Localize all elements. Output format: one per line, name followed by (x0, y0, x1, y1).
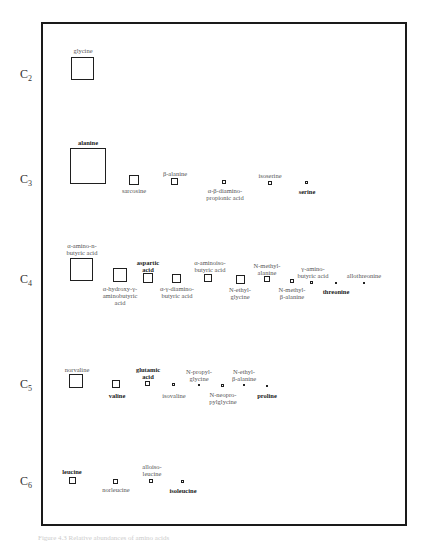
label-line: leucine (142, 470, 162, 477)
abundance-box-n-methylalanine (264, 276, 270, 282)
abundance-box-sarcosine (129, 175, 139, 185)
label-line: valine (109, 392, 126, 399)
label-alloisoleucine: alloiso-leucine (142, 463, 162, 477)
abundance-box-isoleucine (181, 480, 184, 483)
abundance-box-valine (112, 380, 120, 388)
label-line: isoleucine (169, 487, 196, 494)
label-line: α-hydroxy-γ- (103, 285, 138, 292)
label-line: glycine (229, 293, 251, 300)
label-line: α-β-diamino- (206, 187, 243, 194)
abundance-box-isoserine (268, 181, 272, 185)
abundance-box-n-neopropylglycine (221, 384, 224, 387)
row-label-c2: C2 (20, 67, 32, 83)
label-line: N-methyl- (278, 286, 305, 293)
label-line: allothreonine (347, 272, 381, 279)
label-threonine: threonine (323, 288, 350, 295)
abundance-box-aminoiso-butyric-acid (204, 274, 212, 282)
label-line: butyric acid (194, 266, 226, 273)
label-line: N-neopro- (209, 391, 236, 398)
label-alanine: β-alanine (163, 170, 187, 177)
label-line: glutamic (136, 366, 160, 373)
label-line: acid (137, 266, 159, 273)
label-aminoiso-butyric-acid: α-aminoiso-butyric acid (194, 259, 226, 273)
abundance-box-n-methyl-alanine (290, 279, 294, 283)
label-diamino-butyric-acid: α-γ-diamino-butyric acid (160, 285, 194, 299)
label-proline: proline (257, 392, 277, 399)
label-n-neopropylglycine: N-neopro-pylglycine (209, 391, 236, 405)
label-line: isoserine (258, 172, 281, 179)
label-isoserine: isoserine (258, 172, 281, 179)
label-isoleucine: isoleucine (169, 487, 196, 494)
abundance-box-aspartic-acid (143, 273, 153, 283)
label-line: pylglycine (209, 398, 236, 405)
abundance-box-n-propylglycine (198, 384, 200, 386)
abundance-box-alanine (171, 178, 178, 185)
figure-caption: Figure 4.3 Relative abundances of amino … (38, 534, 169, 542)
label-line: aminobutyric (103, 292, 138, 299)
abundance-box-diamino-butyric-acid (172, 274, 181, 283)
label-line: glycine (73, 47, 92, 54)
label-line: alanine (253, 269, 280, 276)
label-line: N-methyl- (253, 262, 280, 269)
label-norvaline: norvaline (65, 366, 90, 373)
label-isovaline: isovaline (162, 392, 185, 399)
abundance-box-hydroxy-aminobutyric-acid (113, 268, 127, 282)
label-line: α-aminoiso- (194, 259, 226, 266)
row-label-c5: C5 (20, 377, 32, 393)
label-line: norleucine (102, 486, 129, 493)
label-line: acid (103, 299, 138, 306)
label-aspartic-acid: asparticacid (137, 259, 159, 273)
label-line: propionic acid (206, 194, 243, 201)
label-line: N-propyl- (186, 368, 212, 375)
label-line: glycine (186, 375, 212, 382)
label-line: butyric acid (160, 292, 194, 299)
label-line: butyric acid (298, 272, 329, 279)
abundance-box-norvaline (69, 374, 83, 388)
label-n-ethyl-alanine: N-ethyl-β-alanine (232, 368, 256, 382)
label-diamino-propionic-acid: α-β-diamino-propionic acid (206, 187, 243, 201)
label-line: N-ethyl- (229, 286, 251, 293)
label-line: N-ethyl- (232, 368, 256, 375)
label-amino-n-butyric-acid: α-amino-n-butyric acid (67, 242, 98, 256)
abundance-box-serine (305, 181, 308, 184)
label-line: γ-amino- (298, 265, 329, 272)
label-allothreonine: allothreonine (347, 272, 381, 279)
label-glycine: glycine (73, 47, 92, 54)
label-line: proline (257, 392, 277, 399)
label-glutamic-acid: glutamicacid (136, 366, 160, 380)
label-hydroxy-aminobutyric-acid: α-hydroxy-γ-aminobutyricacid (103, 285, 138, 306)
abundance-box-leucine (69, 477, 76, 484)
label-line: acid (136, 373, 160, 380)
label-leucine: leucine (62, 468, 82, 475)
row-label-c6: C6 (20, 474, 32, 490)
label-n-methylalanine: N-methyl-alanine (253, 262, 280, 276)
abundance-box-norleucine (113, 479, 118, 484)
abundance-box-n-ethyl-alanine (243, 384, 245, 386)
row-label-c4: C4 (20, 272, 32, 288)
label-line: α-γ-diamino- (160, 285, 194, 292)
abundance-box-proline (266, 385, 268, 387)
label-line: serine (299, 188, 316, 195)
abundance-box-aminobutyric-acid (310, 281, 313, 284)
abundance-box-glycine (71, 57, 94, 80)
label-serine: serine (299, 188, 316, 195)
abundance-box-diamino-propionic-acid (222, 180, 226, 184)
label-line: butyric acid (67, 249, 98, 256)
label-line: α-amino-n- (67, 242, 98, 249)
label-line: β-alanine (232, 375, 256, 382)
abundance-box-allothreonine (363, 282, 365, 284)
abundance-box-glutamic-acid (145, 381, 150, 386)
label-line: alloiso- (142, 463, 162, 470)
label-line: norvaline (65, 366, 90, 373)
label-alanine: alanine (78, 139, 98, 146)
row-label-c3: C3 (20, 172, 32, 188)
label-n-propylglycine: N-propyl-glycine (186, 368, 212, 382)
abundance-box-isovaline (172, 383, 175, 386)
label-line: isovaline (162, 392, 185, 399)
label-line: β-alanine (163, 170, 187, 177)
label-line: aspartic (137, 259, 159, 266)
label-n-methyl-alanine: N-methyl-β-alanine (278, 286, 305, 300)
label-sarcosine: sarcosine (122, 187, 146, 194)
abundance-box-alanine (70, 148, 106, 184)
label-line: alanine (78, 139, 98, 146)
